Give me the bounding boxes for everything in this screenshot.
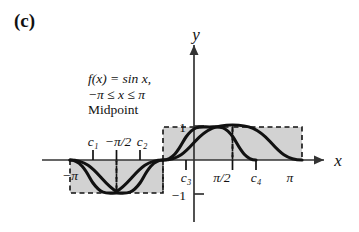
x-tick-label-c3: c₃ [181, 170, 192, 185]
y-tick-label-neg1: −1 [172, 188, 186, 203]
x-tick-label-neg-pi: −π [62, 168, 79, 183]
x-tick-label-c2: c₂ [137, 134, 148, 149]
x-tick-label-pi: π [287, 170, 295, 185]
midpoint-rectangle-c4-ext [233, 127, 303, 160]
x-tick-label-c1: c₁ [88, 134, 99, 149]
midpoint-rule-figure: (c) f(x) = sin x, −π ≤ x ≤ π Midpoint [0, 0, 359, 232]
x-tick-label-neg-pi-over-2: −π/2 [105, 134, 132, 149]
y-tick-label-1: 1 [179, 120, 186, 135]
x-axis-label: x [333, 151, 342, 170]
x-axis-arrowhead [314, 156, 324, 165]
plot-area: y x 1 −1 −π c₁ −π/2 c₂ c₃ π/2 c₄ π [0, 0, 359, 232]
y-axis-arrowhead [190, 45, 199, 55]
y-axis-label: y [190, 25, 200, 44]
x-tick-label-pi-over-2: π/2 [213, 170, 231, 185]
x-tick-label-c4: c₄ [251, 170, 262, 185]
